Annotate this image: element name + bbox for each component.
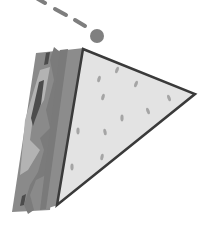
seed-spot bbox=[120, 115, 123, 122]
seed-spot bbox=[76, 128, 79, 135]
dashed-trajectory-line bbox=[38, 0, 85, 26]
seed-spot bbox=[70, 164, 73, 171]
ball-icon bbox=[90, 29, 104, 43]
sandwich-illustration bbox=[0, 0, 210, 227]
